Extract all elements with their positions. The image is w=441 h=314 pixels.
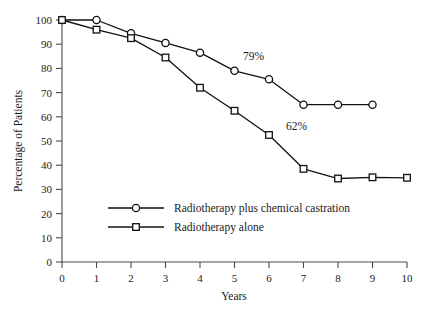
data-point-circle xyxy=(231,67,238,74)
data-point-circle xyxy=(162,39,169,46)
y-axis-ticks: 0102030405060708090100 xyxy=(36,14,63,268)
data-point-square xyxy=(162,54,169,61)
series-circle xyxy=(58,16,376,108)
data-point-square xyxy=(231,107,238,114)
data-point-square xyxy=(128,35,135,42)
y-tick-label: 40 xyxy=(41,159,53,171)
x-tick-label: 2 xyxy=(128,272,134,284)
legend-marker-square xyxy=(133,224,140,231)
legend-item[interactable]: Radiotherapy alone xyxy=(108,221,264,234)
y-tick-label: 30 xyxy=(41,183,53,195)
x-tick-label: 4 xyxy=(197,272,203,284)
series-line xyxy=(62,20,407,179)
annotation-layer: 79%62% xyxy=(243,50,308,132)
data-point-circle xyxy=(265,76,272,83)
x-tick-label: 1 xyxy=(94,272,100,284)
y-tick-label: 70 xyxy=(41,87,53,99)
y-tick-label: 80 xyxy=(41,62,53,74)
y-axis: 0102030405060708090100 xyxy=(36,14,63,268)
y-tick-label: 60 xyxy=(41,111,53,123)
x-axis-title: Years xyxy=(221,290,247,302)
x-tick-label: 10 xyxy=(402,272,414,284)
legend-item[interactable]: Radiotherapy plus chemical castration xyxy=(108,202,350,215)
x-tick-label: 3 xyxy=(163,272,169,284)
x-tick-label: 6 xyxy=(266,272,272,284)
chart-canvas: 0102030405060708090100 012345678910 Perc… xyxy=(0,0,441,314)
data-annotation-label: 62% xyxy=(286,120,308,132)
data-point-circle xyxy=(196,49,203,56)
data-point-square xyxy=(404,174,411,181)
data-point-square xyxy=(93,26,100,33)
x-tick-label: 8 xyxy=(335,272,341,284)
data-annotation-label: 79% xyxy=(243,50,265,62)
x-tick-label: 0 xyxy=(59,272,65,284)
data-point-square xyxy=(369,174,376,181)
data-point-square xyxy=(335,175,342,182)
series-layer xyxy=(58,16,410,181)
y-tick-label: 0 xyxy=(47,256,53,268)
x-tick-label: 5 xyxy=(232,272,238,284)
x-tick-label: 9 xyxy=(370,272,376,284)
data-point-square xyxy=(300,166,307,173)
y-axis-title: Percentage of Patients xyxy=(12,89,25,192)
data-point-circle xyxy=(300,101,307,108)
legend-label: Radiotherapy alone xyxy=(174,221,264,234)
data-point-circle xyxy=(93,16,100,23)
survival-curve-chart: 0102030405060708090100 012345678910 Perc… xyxy=(0,0,441,314)
legend-marker-circle xyxy=(132,204,139,211)
y-tick-label: 90 xyxy=(41,38,53,50)
data-point-circle xyxy=(334,101,341,108)
data-point-square xyxy=(266,132,273,139)
y-tick-label: 100 xyxy=(36,14,53,26)
legend-label: Radiotherapy plus chemical castration xyxy=(174,202,350,215)
x-axis: 012345678910 xyxy=(59,262,413,284)
series-square xyxy=(59,17,411,182)
chart-legend: Radiotherapy plus chemical castrationRad… xyxy=(108,202,350,234)
data-point-square xyxy=(59,17,66,24)
y-tick-label: 50 xyxy=(41,135,53,147)
x-axis-ticks: 012345678910 xyxy=(59,262,413,284)
y-tick-label: 10 xyxy=(41,232,53,244)
y-tick-label: 20 xyxy=(41,208,53,220)
data-point-circle xyxy=(369,101,376,108)
x-tick-label: 7 xyxy=(301,272,307,284)
data-point-square xyxy=(197,84,204,91)
